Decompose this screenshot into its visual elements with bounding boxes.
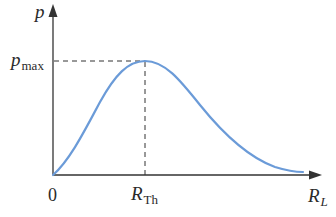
origin-label: 0 (48, 186, 57, 204)
y-axis-arrow-icon (49, 4, 58, 17)
r-th-main: R (131, 183, 143, 204)
p-max-main: p (11, 49, 21, 70)
r-l-main: R (308, 185, 320, 206)
r-th-sub: Th (144, 192, 158, 207)
r-l-sub: L (321, 194, 328, 209)
y-axis-label: p (35, 2, 45, 21)
x-axis-arrow-icon (309, 171, 322, 180)
p-max-label: pmax (11, 50, 44, 69)
x-axis-label: RL (308, 186, 328, 205)
p-max-sub: max (22, 58, 44, 73)
power-curve (53, 61, 303, 175)
r-th-label: RTh (131, 184, 158, 203)
